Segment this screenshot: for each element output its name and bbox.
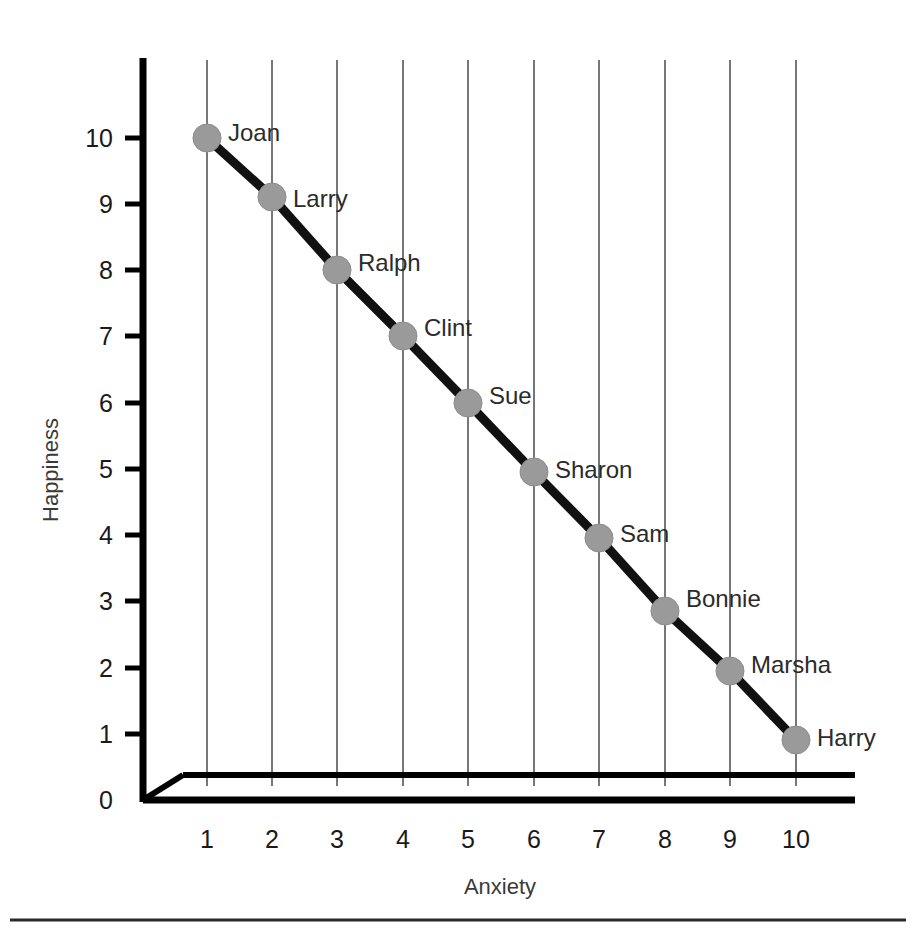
x-tick-label-10: 10: [782, 825, 810, 853]
data-point-bonnie[interactable]: [651, 597, 679, 625]
y-tick-label-4: 4: [99, 521, 113, 549]
chart-page: 10 9 8 7 6 5 4 3 2 1 0 1 2 3 4 5 6 7 8 9…: [0, 0, 916, 933]
y-tick-label-2: 2: [99, 654, 113, 682]
x-tick-label-8: 8: [658, 825, 672, 853]
data-label-marsha: Marsha: [751, 651, 832, 678]
x-tick-label-4: 4: [396, 825, 410, 853]
x-tick-label-2: 2: [265, 825, 279, 853]
data-point-sue[interactable]: [454, 389, 482, 417]
y-tick-label-5: 5: [99, 455, 113, 483]
x-tick-label-7: 7: [592, 825, 606, 853]
x-tick-label-6: 6: [527, 825, 541, 853]
data-label-bonnie: Bonnie: [686, 585, 761, 612]
data-point-sharon[interactable]: [520, 458, 548, 486]
data-point-joan[interactable]: [193, 124, 221, 152]
data-label-harry: Harry: [817, 724, 876, 751]
data-point-harry[interactable]: [782, 726, 810, 754]
x-tick-label-9: 9: [723, 825, 737, 853]
y-tick-label-6: 6: [99, 389, 113, 417]
data-point-marsha[interactable]: [716, 657, 744, 685]
data-label-sue: Sue: [489, 382, 532, 409]
anxiety-happiness-line-chart: 10 9 8 7 6 5 4 3 2 1 0 1 2 3 4 5 6 7 8 9…: [0, 0, 916, 933]
data-point-ralph[interactable]: [323, 256, 351, 284]
x-tick-label-1: 1: [200, 825, 214, 853]
data-label-joan: Joan: [228, 119, 280, 146]
y-tick-label-8: 8: [99, 256, 113, 284]
data-label-larry: Larry: [293, 185, 348, 212]
x-tick-label-5: 5: [461, 825, 475, 853]
y-tick-label-7: 7: [99, 322, 113, 350]
data-point-larry[interactable]: [258, 183, 286, 211]
data-label-ralph: Ralph: [358, 249, 421, 276]
y-tick-label-9: 9: [99, 190, 113, 218]
x-axis-title: Anxiety: [464, 874, 536, 899]
data-label-clint: Clint: [424, 314, 472, 341]
data-label-sam: Sam: [620, 520, 669, 547]
data-point-clint[interactable]: [389, 322, 417, 350]
y-tick-label-10: 10: [85, 124, 113, 152]
y-tick-label-0: 0: [99, 786, 113, 814]
data-point-sam[interactable]: [585, 524, 613, 552]
data-label-sharon: Sharon: [555, 456, 632, 483]
x-tick-label-3: 3: [330, 825, 344, 853]
y-tick-label-3: 3: [99, 587, 113, 615]
y-axis-title: Happiness: [38, 418, 63, 522]
y-tick-label-1: 1: [99, 720, 113, 748]
